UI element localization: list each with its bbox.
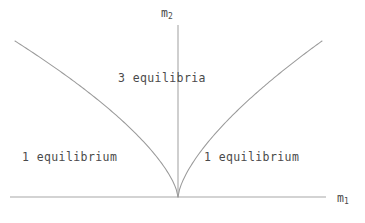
y-axis-label-subscript: 2	[168, 12, 173, 21]
cusp-curve-right	[178, 41, 322, 197]
region-label-three-equilibria: 3 equilibria	[118, 73, 206, 85]
region-label-one-equilibrium-left: 1 equilibrium	[22, 152, 117, 164]
region-label-one-equilibrium-right: 1 equilibrium	[204, 152, 299, 164]
x-axis-label-subscript: 1	[344, 197, 349, 206]
x-axis-label: m1	[337, 193, 349, 205]
y-axis-label-base: m	[161, 6, 168, 20]
cusp-curve-left	[15, 41, 178, 197]
x-axis-label-base: m	[337, 191, 344, 205]
plot-canvas	[0, 0, 365, 223]
bifurcation-diagram: m2 m1 3 equilibria 1 equilibrium 1 equil…	[0, 0, 365, 223]
y-axis-label: m2	[161, 8, 173, 20]
